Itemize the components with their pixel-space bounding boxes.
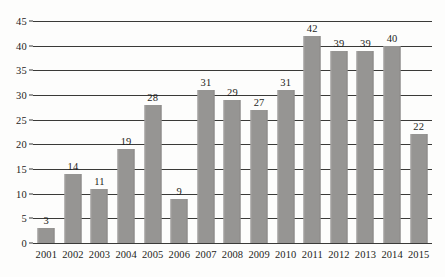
bar xyxy=(118,149,135,243)
bar-slot: 14 xyxy=(60,21,87,243)
x-tick-label-2012: 2012 xyxy=(328,249,349,260)
bar-slot: 3 xyxy=(33,21,60,243)
x-tick-label-2008: 2008 xyxy=(222,249,243,260)
bar-value-label: 40 xyxy=(387,33,398,44)
bar-value-label: 22 xyxy=(413,121,424,132)
bar-value-label: 42 xyxy=(307,23,318,34)
bar xyxy=(330,51,347,243)
bar xyxy=(38,228,55,243)
bar-value-label: 31 xyxy=(200,77,211,88)
x-tick-label-2015: 2015 xyxy=(408,249,429,260)
bar-slot: 29 xyxy=(219,21,246,243)
bar-value-label: 19 xyxy=(121,136,132,147)
bar-slot: 39 xyxy=(352,21,379,243)
y-tick-label-20: 20 xyxy=(16,139,27,150)
y-tick-label-35: 35 xyxy=(16,65,27,76)
bar xyxy=(410,134,427,243)
x-axis: 2001200220032004200520062007200820092010… xyxy=(33,249,432,267)
gridline-0 xyxy=(33,243,432,244)
bar-slot: 11 xyxy=(86,21,113,243)
y-tick-label-30: 30 xyxy=(16,90,27,101)
bar-value-label: 3 xyxy=(44,215,49,226)
y-tick-label-25: 25 xyxy=(16,114,27,125)
bar-slot: 39 xyxy=(326,21,353,243)
bar-value-label: 9 xyxy=(177,186,182,197)
bar-value-label: 39 xyxy=(333,38,344,49)
x-tick-label-2010: 2010 xyxy=(275,249,296,260)
bar xyxy=(304,36,321,243)
bar-value-label: 14 xyxy=(67,161,78,172)
bar-slot: 22 xyxy=(405,21,432,243)
bar xyxy=(144,105,161,243)
bar-value-label: 11 xyxy=(94,176,105,187)
bar-slot: 28 xyxy=(139,21,166,243)
bar xyxy=(171,199,188,243)
bar xyxy=(357,51,374,243)
plot-area: 3141119289312927314239394022 xyxy=(33,21,432,243)
bar-slot: 40 xyxy=(379,21,406,243)
x-tick-label-2013: 2013 xyxy=(355,249,376,260)
x-tick-label-2014: 2014 xyxy=(381,249,402,260)
bar xyxy=(277,90,294,243)
y-axis: 051015202530354045 xyxy=(0,0,33,277)
x-tick-label-2007: 2007 xyxy=(195,249,216,260)
bar xyxy=(251,110,268,243)
bar xyxy=(64,174,81,243)
y-tick-label-0: 0 xyxy=(22,238,27,249)
bar xyxy=(91,189,108,243)
bar-value-label: 27 xyxy=(254,97,265,108)
x-tick-label-2001: 2001 xyxy=(36,249,57,260)
bar-value-label: 39 xyxy=(360,38,371,49)
x-tick-label-2004: 2004 xyxy=(115,249,136,260)
x-tick-label-2002: 2002 xyxy=(62,249,83,260)
bar-slot: 19 xyxy=(113,21,140,243)
bar-slot: 42 xyxy=(299,21,326,243)
bar-slot: 27 xyxy=(246,21,273,243)
y-tick-label-45: 45 xyxy=(16,16,27,27)
y-tick-label-40: 40 xyxy=(16,40,27,51)
x-tick-label-2009: 2009 xyxy=(248,249,269,260)
bar-slot: 31 xyxy=(272,21,299,243)
x-tick-label-2003: 2003 xyxy=(89,249,110,260)
bar xyxy=(224,100,241,243)
y-tick-label-5: 5 xyxy=(22,213,27,224)
bar-value-label: 31 xyxy=(280,77,291,88)
x-tick-label-2005: 2005 xyxy=(142,249,163,260)
x-tick-label-2011: 2011 xyxy=(302,249,323,260)
bar-value-label: 29 xyxy=(227,87,238,98)
y-tick-label-10: 10 xyxy=(16,188,27,199)
bar-chart: 051015202530354045 314111928931292731423… xyxy=(0,0,445,277)
x-tick-label-2006: 2006 xyxy=(169,249,190,260)
bar xyxy=(384,46,401,243)
bar-value-label: 28 xyxy=(147,92,158,103)
bar xyxy=(197,90,214,243)
bar-slot: 31 xyxy=(193,21,220,243)
bars-group: 3141119289312927314239394022 xyxy=(33,21,432,243)
y-tick-label-15: 15 xyxy=(16,164,27,175)
bar-slot: 9 xyxy=(166,21,193,243)
